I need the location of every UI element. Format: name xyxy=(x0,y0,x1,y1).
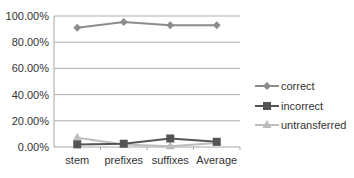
legend-label: untransferred xyxy=(281,119,346,131)
correct-marker xyxy=(166,21,174,29)
correct-marker xyxy=(73,24,81,32)
gridlines xyxy=(54,16,240,147)
series-correct xyxy=(73,18,221,32)
y-tick-label: 20.00% xyxy=(12,115,50,127)
square-marker-icon xyxy=(263,102,271,110)
untransferred-marker xyxy=(73,133,82,141)
incorrect-marker xyxy=(213,138,221,146)
legend-item-incorrect: incorrect xyxy=(255,100,323,112)
y-tick-label: 40.00% xyxy=(12,89,50,101)
x-category-label: suffixes xyxy=(152,154,190,166)
x-category-label: Average xyxy=(196,154,237,166)
series-lines xyxy=(73,18,222,149)
correct-marker xyxy=(120,18,128,26)
legend: correctincorrectuntransferred xyxy=(255,80,346,131)
y-tick-label: 80.00% xyxy=(12,36,50,48)
legend-label: correct xyxy=(281,80,315,92)
legend-label: incorrect xyxy=(281,100,323,112)
x-category-label: stem xyxy=(65,154,89,166)
incorrect-marker xyxy=(166,134,174,142)
x-axis: stemprefixessuffixesAverage xyxy=(65,147,240,166)
y-tick-label: 100.00% xyxy=(6,10,50,22)
y-tick-label: 60.00% xyxy=(12,62,50,74)
incorrect-marker xyxy=(73,140,81,148)
incorrect-marker xyxy=(120,140,128,148)
diamond-marker-icon xyxy=(263,82,271,90)
correct-marker xyxy=(213,21,221,29)
correct-line xyxy=(77,22,217,28)
y-axis: 0.00%20.00%40.00%60.00%80.00%100.00% xyxy=(6,10,54,153)
line-chart: 0.00%20.00%40.00%60.00%80.00%100.00% ste… xyxy=(0,0,354,178)
legend-item-untransferred: untransferred xyxy=(255,119,346,131)
x-category-label: prefixes xyxy=(104,154,143,166)
legend-item-correct: correct xyxy=(255,80,315,92)
y-tick-label: 0.00% xyxy=(18,141,49,153)
